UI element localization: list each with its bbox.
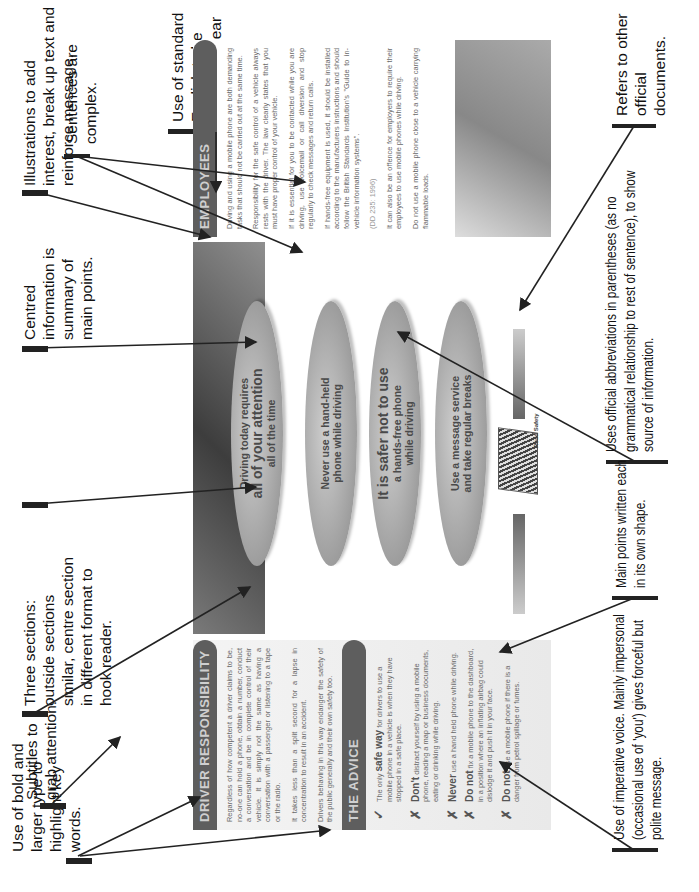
logo-caption: Road Safety — [533, 413, 539, 448]
think-logo-icon — [498, 427, 538, 495]
bubble-hands-free: It is safer not to use a hands-free phon… — [369, 301, 421, 566]
paragraph: If it is essential for you to be contact… — [287, 48, 316, 229]
advice-item: ✗Do not use a mobile phone if there is a… — [502, 648, 522, 822]
advice-item: ✗Don't distract yourself by using a mobi… — [411, 648, 441, 822]
note-abbreviations: Uses official abbreviations in parenthes… — [602, 140, 658, 452]
cross-icon: ✗ — [502, 809, 512, 820]
annotation-bar — [612, 124, 656, 128]
annotation-bar — [64, 154, 90, 158]
road-safety-leaflet: DRIVER RESPONSIBILITY Regardless of how … — [193, 40, 551, 830]
check-icon: ✓ — [374, 809, 384, 820]
annotation-bar — [40, 803, 66, 809]
bubble-message-service: Use a message service and take regular b… — [435, 301, 487, 566]
cross-icon: ✗ — [448, 809, 458, 820]
advice-item: ✗Do not fix a mobile phone to the dashbo… — [465, 648, 495, 822]
paragraph: It takes less than a split second for a … — [290, 648, 309, 822]
note-three-sections: Three sections: outside sections similar… — [20, 556, 115, 706]
advice-item: ✓The only safe way for drivers to use a … — [374, 648, 404, 822]
note-sentences: Sentences are complex. — [62, 44, 100, 144]
rotated-page: Use of bold and larger type to highlight… — [0, 0, 699, 892]
panel-driver-responsibility: DRIVER RESPONSIBILITY Regardless of how … — [193, 640, 551, 830]
bubble-attention: Driving today requires all of your atten… — [231, 301, 283, 566]
cross-icon: ✗ — [411, 809, 421, 820]
gradient-bar — [513, 329, 525, 419]
annotation-bar — [22, 346, 48, 352]
paragraph: If hands-free equipment is used, it shou… — [323, 48, 361, 229]
paragraph: Drivers behaving in this way endanger th… — [316, 648, 335, 822]
heading-driver-responsibility: DRIVER RESPONSIBILITY — [193, 640, 217, 830]
paragraph: Regardless of how competent a driver cla… — [225, 648, 283, 822]
note-centred-info: Centred information is summary of main p… — [20, 230, 96, 340]
paragraph: Responsibility for the safe control of a… — [251, 48, 280, 229]
centre-panel: Driving today requires all of your atten… — [193, 242, 551, 634]
cross-icon: ✗ — [465, 809, 475, 820]
annotation-bar — [22, 502, 48, 508]
advice-item: ✗Never use a hand held phone while drivi… — [448, 648, 459, 822]
heading-employees: EMPLOYEES — [193, 40, 217, 237]
bubble-hand-held: Never use a hand-held phone while drivin… — [305, 301, 357, 566]
note-main-points: Main points written each in its own shap… — [612, 449, 649, 588]
photo-phone-in-car — [455, 40, 551, 237]
paragraph: Do not use a mobile phone close to a veh… — [411, 48, 430, 229]
annotation-bar — [22, 711, 48, 717]
annotation-bar — [612, 848, 658, 852]
note-imperative: Use of imperative voice. Mainly imperson… — [610, 594, 666, 840]
paragraph: Driving and using a mobile phone are bot… — [225, 48, 244, 229]
heading-the-advice: THE ADVICE — [342, 640, 366, 830]
citation: (DD 235: 1996) — [368, 48, 378, 229]
gradient-bar — [513, 514, 525, 614]
annotation-bar — [22, 190, 48, 196]
panel-employees: EMPLOYEES Driving and using a mobile pho… — [193, 40, 551, 237]
note-subtitles: Subtitles to grab attention. — [22, 690, 60, 800]
annotation-bar — [66, 858, 92, 864]
paragraph: It can also be an offence for employers … — [385, 48, 404, 229]
note-refers: Refers to other official documents. — [612, 6, 669, 116]
